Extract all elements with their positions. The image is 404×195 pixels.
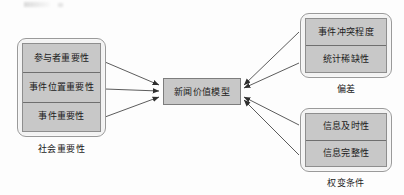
- node-event-conflict-degree[interactable]: 事件冲突程度: [306, 19, 386, 45]
- scan-artifact-secondary: [58, 3, 63, 7]
- group-caption-social-importance: 社会重要性: [17, 142, 106, 155]
- arrow-event-location-importance: [105, 89, 159, 91]
- arrow-event-conflict-degree: [244, 32, 299, 85]
- group-social-importance[interactable]: 参与者重要性 事件位置重要性 事件重要性: [17, 38, 106, 137]
- node-information-timeliness[interactable]: 信息及时性: [306, 114, 386, 140]
- arrow-event-importance: [105, 97, 159, 117]
- arrow-statistical-scarcity: [244, 63, 299, 88]
- group-contingency-conditions[interactable]: 信息及时性 信息完整性: [300, 108, 392, 172]
- node-event-location-importance[interactable]: 事件位置重要性: [23, 72, 100, 101]
- group-deviance-boxes: 事件冲突程度 统计稀缺性: [305, 18, 387, 73]
- node-event-importance[interactable]: 事件重要性: [23, 102, 100, 131]
- group-caption-deviance: 偏差: [300, 82, 392, 95]
- arrow-participant-importance: [105, 62, 159, 85]
- node-statistical-scarcity[interactable]: 统计稀缺性: [306, 45, 386, 72]
- node-information-completeness[interactable]: 信息完整性: [306, 140, 386, 167]
- group-social-importance-boxes: 参与者重要性 事件位置重要性 事件重要性: [22, 43, 101, 132]
- diagram-canvas: 参与者重要性 事件位置重要性 事件重要性 社会重要性 新闻价值模型 事件冲突程度…: [0, 0, 404, 195]
- arrow-information-completeness: [244, 100, 299, 155]
- arrow-information-timeliness: [244, 97, 299, 125]
- node-news-value-model[interactable]: 新闻价值模型: [163, 78, 241, 105]
- group-deviance[interactable]: 事件冲突程度 统计稀缺性: [300, 13, 392, 78]
- node-participant-importance[interactable]: 参与者重要性: [23, 44, 100, 72]
- group-caption-contingency-conditions: 权变条件: [300, 176, 392, 189]
- scan-artifact: [24, 2, 50, 7]
- group-contingency-conditions-boxes: 信息及时性 信息完整性: [305, 113, 387, 167]
